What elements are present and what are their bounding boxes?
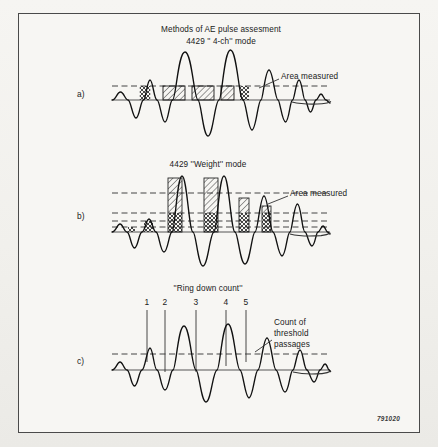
panel-c-count-marker-2: 2 xyxy=(163,298,168,308)
waveform-canvas xyxy=(0,0,438,447)
figure-reference-number: 791020 xyxy=(377,415,400,422)
panel-a-waveform-tail xyxy=(292,102,331,105)
panel-c-count-marker-4: 4 xyxy=(224,298,229,308)
figure-title-line2: 4429 '' 4-ch'' mode xyxy=(186,37,256,47)
panel-b-area-measured-label: Area measured xyxy=(290,189,347,199)
panel-c-count-markers xyxy=(147,310,246,372)
panel-a-area-measured-label: Area measured xyxy=(281,72,338,82)
panel-c-count-marker-3: 3 xyxy=(194,298,199,308)
panel-c-letter: c) xyxy=(77,357,84,367)
panel-c-count-label-line3: passages xyxy=(274,339,310,350)
panel-c-waveform-tail xyxy=(293,371,331,374)
figure-title-line1: Methods of AE pulse assesment xyxy=(161,25,281,35)
panel-c-count-label-line2: threshold xyxy=(274,328,309,339)
panel-c-heading: ''Ring down count'' xyxy=(173,284,242,294)
panel-b-heading: 4429 ''Weight'' mode xyxy=(170,160,247,170)
figure-root: Methods of AE pulse assesment 4429 '' 4-… xyxy=(0,0,438,447)
panel-b-waveform-tail xyxy=(290,233,331,236)
panel-c-count-label-line1: Count of xyxy=(274,317,306,328)
panel-b-letter: b) xyxy=(77,212,85,222)
panel-a-plot xyxy=(112,50,331,136)
panel-b-annotation-leader xyxy=(268,196,288,204)
panel-a-annotation-leader xyxy=(259,79,279,88)
panel-c-count-marker-1: 1 xyxy=(145,298,150,308)
panel-a-letter: a) xyxy=(77,90,85,100)
panel-c-count-marker-5: 5 xyxy=(244,298,249,308)
panel-b-hatched-areas xyxy=(128,178,271,232)
